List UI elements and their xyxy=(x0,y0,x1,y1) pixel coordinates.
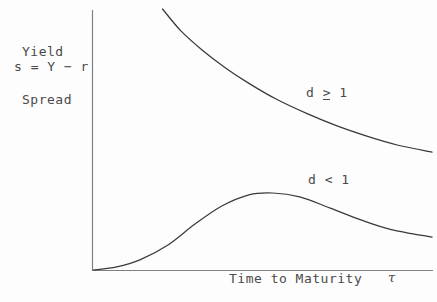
y-axis-label-line2: Spread xyxy=(16,92,72,108)
greater-than-or-equal-icon: > xyxy=(323,85,331,101)
x-axis-label: Time to Maturity xyxy=(229,271,362,287)
y-axis-formula: s = Y − r xyxy=(14,59,89,75)
curve-label-suffix: 1 xyxy=(331,85,348,100)
y-axis-label-line1: Yield xyxy=(16,44,72,60)
y-axis-label: Yield Spread xyxy=(16,12,72,140)
curve-label-d-geq-1: d > 1 xyxy=(306,85,348,101)
curve-label-d-lt-1: d < 1 xyxy=(308,172,350,188)
curve-d-geq-1 xyxy=(163,9,433,152)
x-axis-symbol-tau: τ xyxy=(388,270,396,286)
yield-spread-figure: Yield Spread s = Y − r Time to Maturity … xyxy=(0,0,437,302)
curve-label-prefix: d xyxy=(306,85,323,100)
curve-d-lt-1 xyxy=(93,193,432,270)
